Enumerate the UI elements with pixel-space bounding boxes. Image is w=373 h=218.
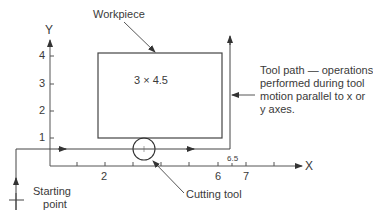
starting-point-line: Starting bbox=[33, 185, 71, 198]
cutting-tool-label: Cutting tool bbox=[186, 188, 242, 201]
x-tick-label: 7 bbox=[243, 170, 249, 182]
workpiece-dimensions: 3 × 4.5 bbox=[134, 74, 168, 87]
y-tick-label: 4 bbox=[39, 49, 45, 61]
workpiece-rect bbox=[98, 53, 222, 138]
tool-path-note-line: motion parallel to x or bbox=[260, 90, 373, 103]
y-tick-label: 2 bbox=[39, 104, 45, 116]
x-tick-label: 6 bbox=[215, 170, 221, 182]
y-axis-label: Y bbox=[45, 23, 53, 37]
x-tick-label-small: 6.5 bbox=[227, 154, 238, 163]
starting-point-label: Starting point bbox=[33, 185, 71, 211]
y-tick-label: 3 bbox=[39, 77, 45, 89]
starting-point-line: point bbox=[33, 198, 71, 211]
x-tick-label: 2 bbox=[101, 170, 107, 182]
tool-path-note-line: performed during tool bbox=[260, 77, 373, 90]
x-axis bbox=[50, 162, 302, 166]
tool-path-note: Tool path — operations performed during … bbox=[260, 64, 373, 116]
tool-path bbox=[16, 36, 230, 210]
y-tick-label: 1 bbox=[39, 131, 45, 143]
workpiece-label: Workpiece bbox=[93, 8, 145, 21]
tool-path-note-line: Tool path — operations bbox=[260, 64, 373, 77]
workpiece-leader bbox=[124, 22, 155, 52]
starting-point-marker bbox=[9, 193, 24, 210]
tool-path-note-line: y axes. bbox=[260, 103, 373, 116]
x-axis-label: X bbox=[305, 159, 313, 173]
y-axis bbox=[50, 40, 54, 166]
